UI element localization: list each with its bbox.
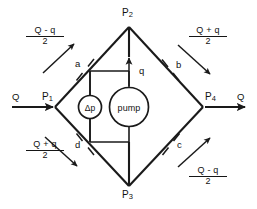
pump-flow-label: q <box>139 66 144 76</box>
flow-rate-upper-left: Q - q 2 <box>26 26 64 47</box>
flow-rate-lower-left-denominator: 2 <box>26 151 64 161</box>
flow-rate-upper-left-denominator: 2 <box>26 37 64 47</box>
outlet-label: Q <box>237 92 244 102</box>
flow-rate-upper-right-numerator: Q + q <box>189 26 227 37</box>
flow-arrow-upper-right <box>178 45 210 74</box>
flow-network-diagram: P2 P1 P4 P3 Q Q q a b c d Δp pump Q - q … <box>0 0 257 209</box>
flow-arrow-upper-left <box>43 44 74 73</box>
flow-rate-upper-left-numerator: Q - q <box>26 26 64 37</box>
flow-rate-upper-right-denominator: 2 <box>189 37 227 47</box>
flow-rate-lower-left: Q + q 2 <box>26 140 64 161</box>
flow-rate-upper-right: Q + q 2 <box>189 26 227 47</box>
flow-rate-lower-right: Q - q 2 <box>189 166 227 187</box>
flow-rate-lower-left-numerator: Q + q <box>26 140 64 151</box>
flow-arrow-lower-right <box>178 138 210 167</box>
inlet-label: Q <box>12 92 19 102</box>
node-label-p3: P3 <box>122 190 133 201</box>
delta-p-label: Δp <box>78 103 102 113</box>
node-label-p1: P1 <box>42 92 53 103</box>
branch-label-b: b <box>176 60 181 70</box>
flow-rate-lower-right-numerator: Q - q <box>189 166 227 177</box>
branch-label-c: c <box>177 140 182 150</box>
branch-label-d: d <box>75 140 80 150</box>
flow-rate-lower-right-denominator: 2 <box>189 177 227 187</box>
pump-label: pump <box>110 103 148 113</box>
branch-label-a: a <box>75 59 80 69</box>
node-label-p4: P4 <box>205 92 216 103</box>
node-label-p2: P2 <box>122 8 133 19</box>
